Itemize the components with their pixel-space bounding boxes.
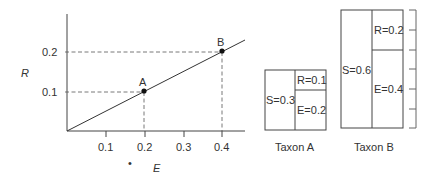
- taxon-a-r-label: R=0.1: [297, 74, 327, 86]
- y-axis-title: R: [21, 67, 29, 79]
- y-tick-label: 0.1: [42, 86, 57, 98]
- x-tick-label: 0.1: [98, 141, 113, 153]
- taxon-b-e-label: E=0.4: [374, 83, 403, 95]
- x-tick-label: 0.3: [176, 141, 191, 153]
- point-b-label: B: [217, 36, 224, 48]
- y-tick-label: 0.2: [42, 46, 57, 58]
- stray-mark: •: [128, 157, 132, 169]
- x-axis-title: E: [153, 162, 161, 174]
- taxon-b-r-label: R=0.2: [374, 24, 404, 36]
- taxon-b-s-label: S=0.6: [342, 64, 371, 76]
- x-tick-label: 0.4: [214, 141, 229, 153]
- trend-line: [67, 40, 245, 131]
- taxon-a-e-label: E=0.2: [297, 104, 326, 116]
- figure: A B 0.1 0.2 0.1 0.2 0.3 0.4 R E • S=0.3 …: [0, 0, 435, 178]
- x-tick-label: 0.2: [137, 141, 152, 153]
- taxon-b-title: Taxon B: [354, 141, 394, 153]
- scale-bracket: [409, 10, 416, 128]
- point-b: [219, 48, 224, 53]
- point-a: [141, 88, 146, 93]
- point-a-label: A: [139, 76, 147, 88]
- taxon-a-s-label: S=0.3: [266, 94, 295, 106]
- taxon-a-title: Taxon A: [275, 141, 315, 153]
